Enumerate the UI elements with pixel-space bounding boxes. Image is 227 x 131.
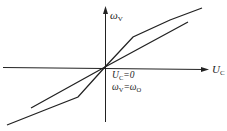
linear-curve: [31, 22, 188, 108]
x-axis-symbol: U: [212, 63, 220, 75]
annotation-symbol: ω: [112, 82, 119, 92]
annotation-symbol: U: [112, 70, 119, 80]
y-axis-label: ωV: [110, 10, 123, 23]
x-axis-arrow-icon: [201, 67, 209, 72]
annotation-uc-zero: UC=0: [112, 71, 134, 82]
y-axis-subscript: V: [118, 15, 123, 23]
x-axis-label: UC: [212, 64, 225, 77]
piecewise-curve: [7, 8, 202, 125]
annotation-subscript-2: O: [137, 86, 142, 93]
annotation-value: =0: [123, 70, 134, 80]
y-axis-arrow-icon: [103, 6, 108, 14]
annotation-omega-equal: ωV=ωO: [112, 83, 141, 94]
x-axis-subscript: C: [220, 69, 225, 77]
y-axis-symbol: ω: [110, 9, 118, 21]
annotation-equals: =ω: [123, 82, 136, 92]
